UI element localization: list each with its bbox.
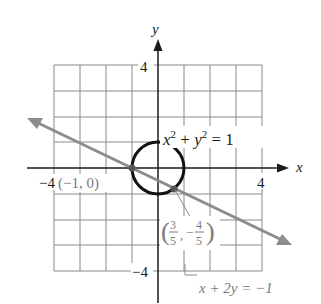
- svg-text:5: 5: [170, 234, 176, 248]
- svg-text:): ): [206, 217, 215, 246]
- graph-figure: x y 4 4 −4 −4 (−1, 0) ( 3 5 , − 4 5 ): [0, 0, 321, 304]
- y-axis-arrow-icon: [154, 39, 163, 51]
- x-tick-neg4: −4: [39, 175, 55, 191]
- svg-text:5: 5: [196, 234, 202, 248]
- y-tick-4: 4: [140, 59, 148, 75]
- line-equation: x + 2y = −1: [198, 280, 273, 296]
- svg-text:3: 3: [170, 218, 176, 232]
- svg-text:,: ,: [180, 227, 183, 242]
- point-label-3-5-neg4-5: ( 3 5 , − 4 5 ): [160, 216, 220, 250]
- y-tick-neg4: −4: [132, 264, 148, 280]
- x-axis-label: x: [295, 159, 303, 175]
- point-3-5-neg4-5: [171, 186, 178, 193]
- y-axis-label: y: [150, 21, 159, 37]
- point-neg1-0: [129, 165, 136, 172]
- y-axis: [154, 39, 163, 303]
- point-label-neg1-0: (−1, 0): [58, 175, 99, 192]
- svg-text:4: 4: [196, 218, 202, 232]
- line-label-bracket: [185, 264, 197, 275]
- x-axis-arrow-icon: [277, 164, 289, 173]
- svg-text:(: (: [161, 217, 170, 246]
- x-tick-4: 4: [257, 175, 265, 191]
- svg-text:−: −: [186, 225, 193, 240]
